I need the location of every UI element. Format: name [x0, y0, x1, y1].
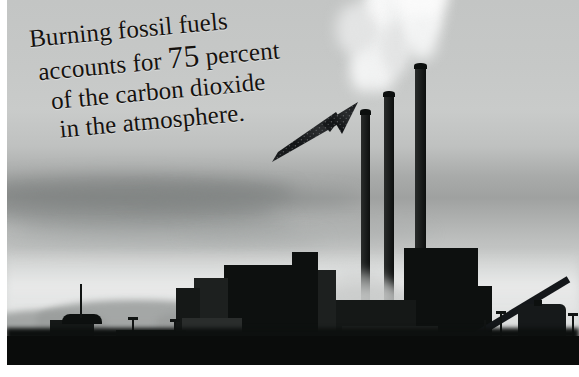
light-pole-lamp — [170, 319, 180, 322]
storage-tank-vent — [534, 300, 542, 306]
antenna-mast — [80, 284, 82, 318]
statistic-value: 75 — [166, 38, 200, 76]
photo-border-bottom — [0, 365, 579, 377]
smokestack-right-cap — [414, 63, 427, 69]
photograph: Burning fossil fuels accounts for 75 per… — [6, 0, 579, 366]
light-pole-lamp — [128, 317, 138, 320]
smoke-plume — [350, 52, 378, 92]
conveyor-head-house — [424, 250, 440, 290]
smokestack-middle-cap — [383, 91, 395, 97]
smokestack-left-cap — [360, 109, 371, 115]
photo-border-left — [0, 0, 7, 377]
cloud-band — [126, 190, 356, 208]
smoke-plume — [408, 8, 438, 60]
outbuilding-roof — [62, 314, 102, 324]
caption-line-2-after: percent — [198, 36, 281, 70]
light-pole-lamp — [568, 313, 578, 316]
smoke-plume — [380, 20, 412, 74]
cloud-band — [176, 226, 436, 240]
foreground-ground — [6, 336, 579, 366]
smoke-plume — [336, 4, 372, 54]
light-pole-lamp — [496, 311, 506, 314]
infographic-image: Burning fossil fuels accounts for 75 per… — [0, 0, 579, 377]
